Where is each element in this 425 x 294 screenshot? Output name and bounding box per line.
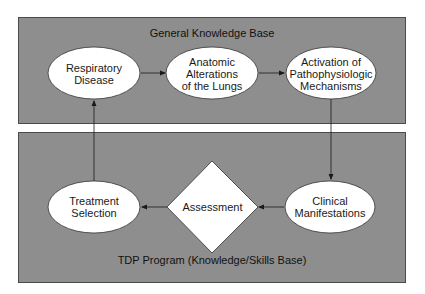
node-respiratory-disease-label: Respiratory Disease: [48, 48, 140, 99]
node-clinical-manifestations-label: Clinical Manifestations: [284, 181, 376, 233]
node-assessment-label: Assessment: [167, 181, 258, 233]
node-anatomic-alterations-label: Anatomic Alterations of the Lungs: [166, 48, 258, 99]
node-treatment-selection-label: Treatment Selection: [48, 181, 140, 233]
flow-diagram-shapes: [0, 0, 425, 294]
node-activation-label: Activation of Pathophysiologic Mechanism…: [284, 48, 378, 99]
